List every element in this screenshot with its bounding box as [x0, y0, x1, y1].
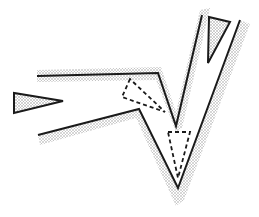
shade-halo-inner: [38, 20, 250, 206]
solid-triangle-left: [14, 93, 63, 113]
v-channel-diagram: [0, 0, 259, 217]
diagram-canvas: [0, 0, 259, 217]
